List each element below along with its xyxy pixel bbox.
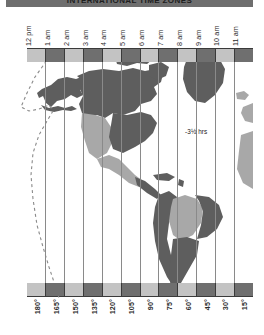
land-europe-iberia xyxy=(241,103,253,123)
bottom-tick-label: 60° xyxy=(184,299,193,310)
bottom-tick-label: 180° xyxy=(33,299,42,314)
zone-cell xyxy=(46,49,65,62)
zone-cell xyxy=(178,283,197,296)
top-tick-label: 3 am xyxy=(81,30,90,46)
tick-cell: 165° xyxy=(46,299,65,333)
top-tick-label: 8 am xyxy=(175,30,184,46)
zone-cell xyxy=(84,49,103,62)
tick-cell: 135° xyxy=(83,299,102,333)
bottom-tick-label: 120° xyxy=(108,299,117,314)
tick-cell: 45° xyxy=(196,299,215,333)
zone-cell xyxy=(103,283,122,296)
bottom-tick-label: 150° xyxy=(71,299,80,314)
international-date-line xyxy=(5,49,95,298)
land-iceland xyxy=(236,91,249,100)
bottom-tick-label: 135° xyxy=(90,299,99,314)
tick-cell: 60° xyxy=(178,299,197,333)
zone-cell xyxy=(141,49,160,62)
top-tick-label: 5 am xyxy=(118,30,127,46)
tick-cell: 90° xyxy=(140,299,159,333)
zone-cell xyxy=(216,283,235,296)
land-west-africa xyxy=(237,131,253,189)
top-time-axis: 12 pm 1 am 2 am 3 am 4 am 5 am 6 am 7 am… xyxy=(27,10,253,46)
zone-cell xyxy=(65,283,84,296)
top-tick-label: 1 am xyxy=(43,30,52,46)
land-central-america xyxy=(135,177,161,199)
bottom-longitude-axis: 180° 165° 150° 135° 120° 105° 90° 75° 60… xyxy=(27,299,253,333)
tick-cell: 11 am xyxy=(234,10,253,46)
zone-cell xyxy=(216,49,235,62)
zone-cell xyxy=(178,49,197,62)
zone-cell xyxy=(141,283,160,296)
time-zone-figure: INTERNATIONAL TIME ZONES 12 pm 1 am 2 am… xyxy=(0,0,264,335)
zone-cell xyxy=(159,283,178,296)
bottom-tick-label: 105° xyxy=(127,299,136,314)
tick-cell: 120° xyxy=(102,299,121,333)
zone-cell xyxy=(197,283,216,296)
zone-cell xyxy=(122,49,141,62)
top-tick-label: 11 am xyxy=(231,26,240,46)
bottom-tick-label: 45° xyxy=(203,299,212,310)
tick-cell: 105° xyxy=(121,299,140,333)
tick-cell: 30° xyxy=(215,299,234,333)
top-tick-label: 2 am xyxy=(62,30,71,46)
land-caribbean xyxy=(153,173,175,181)
land-lesser-antilles xyxy=(178,179,184,187)
zone-cell xyxy=(65,49,84,62)
bottom-tick-label: 15° xyxy=(240,299,249,310)
zone-bar-bottom xyxy=(27,283,253,296)
header-bar: INTERNATIONAL TIME ZONES xyxy=(6,0,253,7)
tick-cell: 75° xyxy=(159,299,178,333)
tick-cell: 180° xyxy=(27,299,46,333)
zone-cell xyxy=(159,49,178,62)
top-tick-label: 12 pm xyxy=(24,26,33,46)
bottom-tick-label: 75° xyxy=(165,299,174,310)
top-tick-label: 4 am xyxy=(99,30,108,46)
land-brazil xyxy=(169,195,203,241)
land-eastern-us xyxy=(109,112,157,153)
zone-cell xyxy=(235,283,253,296)
top-tick-label: 7 am xyxy=(156,30,165,46)
zone-cell xyxy=(103,49,122,62)
land-baffin xyxy=(149,62,169,80)
zone-cell xyxy=(122,283,141,296)
top-tick-label: 9 am xyxy=(194,30,203,46)
top-tick-label: 6 am xyxy=(137,30,146,46)
header-title: INTERNATIONAL TIME ZONES xyxy=(6,0,253,4)
zone-bar-top xyxy=(27,49,253,62)
bottom-tick-label: 90° xyxy=(146,299,155,310)
land-mexico xyxy=(97,155,143,187)
bottom-tick-label: 30° xyxy=(221,299,230,310)
zone-cell xyxy=(235,49,253,62)
zone-cell xyxy=(27,49,46,62)
offset-annotation: -3½ hrs xyxy=(185,128,207,135)
tick-cell: 15° xyxy=(234,299,253,333)
map-panel: -3½ hrs xyxy=(27,48,253,297)
top-tick-label: 10 am xyxy=(212,26,221,46)
tick-cell: 150° xyxy=(65,299,84,333)
zone-cell xyxy=(84,283,103,296)
zone-cell xyxy=(27,283,46,296)
zone-cell xyxy=(197,49,216,62)
zone-cell xyxy=(46,283,65,296)
bottom-tick-label: 165° xyxy=(52,299,61,314)
